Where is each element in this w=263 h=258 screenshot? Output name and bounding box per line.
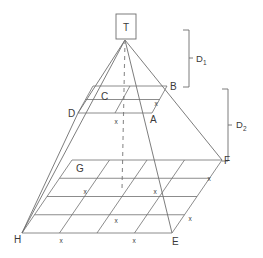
cell-mark: x <box>154 100 158 107</box>
vertex-label-d: D <box>68 108 75 119</box>
vertex-label-e: E <box>172 236 179 247</box>
cell-mark: x <box>132 237 136 244</box>
vertex-label-b: B <box>170 81 177 92</box>
cell-mark: x <box>59 237 63 244</box>
cell-mark: x <box>83 188 87 195</box>
dimension-labels: D1 D2 <box>196 53 247 132</box>
bracket-d1 <box>183 30 193 87</box>
vertex-label-c: C <box>101 91 108 102</box>
vertex-label-a: A <box>150 114 157 125</box>
cell-mark: x <box>114 217 118 224</box>
vertex-label-h: H <box>14 234 21 245</box>
axis-dashed-line <box>122 40 125 190</box>
bracket-d2 <box>222 89 232 161</box>
apex-box: T <box>116 14 136 39</box>
dimension-label-d1-subscript: 1 <box>203 59 207 66</box>
central-axis <box>122 40 125 190</box>
cell-mark: x <box>188 215 192 222</box>
pyramid-diagram: T A B C D E F G H x x x x x x x x x D1 D… <box>0 0 263 258</box>
dimension-label-d1: D1 <box>196 53 207 66</box>
vertex-label-f: F <box>224 155 230 166</box>
edge-apex-to-h <box>22 40 125 233</box>
vertex-label-g: G <box>76 163 84 174</box>
cell-mark: x <box>153 188 157 195</box>
dimension-label-d2: D2 <box>236 119 247 132</box>
cell-mark: x <box>114 118 118 125</box>
apex-box-label: T <box>123 22 129 33</box>
dimension-label-d2-subscript: 2 <box>243 125 247 132</box>
vertex-labels: A B C D E F G H <box>14 81 230 247</box>
